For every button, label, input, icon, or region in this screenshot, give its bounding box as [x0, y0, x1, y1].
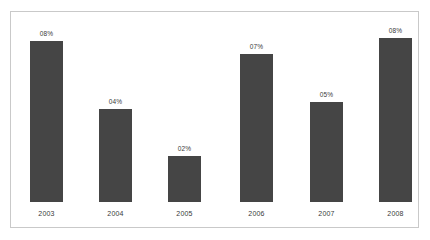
bar-group: 08%2003	[30, 41, 63, 202]
bar-value-label: 05%	[320, 91, 334, 99]
bar[interactable]	[379, 38, 412, 202]
bar-value-label: 07%	[250, 43, 264, 51]
bar[interactable]	[30, 41, 63, 202]
bar-group: 02%2005	[168, 156, 201, 202]
bar-value-label: 04%	[109, 98, 123, 106]
bar-value-label: 02%	[178, 145, 192, 153]
bar-group: 08%2008	[379, 38, 412, 202]
bar-category-label: 2006	[248, 209, 264, 218]
bar-category-label: 2008	[387, 209, 403, 218]
bar-category-label: 2005	[176, 209, 192, 218]
bar-group: 04%2004	[99, 109, 132, 202]
bar-category-label: 2003	[38, 209, 54, 218]
bar-value-label: 08%	[389, 27, 403, 35]
bar-value-label: 08%	[40, 30, 54, 38]
bar[interactable]	[168, 156, 201, 202]
bar-group: 05%2007	[310, 102, 343, 202]
chart-plot-frame: 08%200304%200402%200507%200605%200708%20…	[10, 11, 419, 228]
bar-category-label: 2007	[318, 209, 334, 218]
bar[interactable]	[240, 54, 273, 202]
bar-group: 07%2006	[240, 54, 273, 202]
bar[interactable]	[99, 109, 132, 202]
chart-plot-area: 08%200304%200402%200507%200605%200708%20…	[11, 12, 418, 227]
bar[interactable]	[310, 102, 343, 202]
bar-category-label: 2004	[107, 209, 123, 218]
bar-chart-figure: 08%200304%200402%200507%200605%200708%20…	[0, 0, 430, 240]
